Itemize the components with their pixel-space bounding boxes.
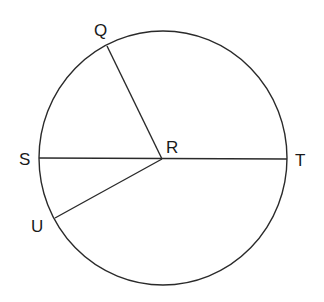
label-U: U — [31, 217, 43, 236]
label-S: S — [19, 150, 30, 169]
diameter-ST — [39, 158, 287, 159]
radius-RQ — [107, 46, 162, 159]
label-T: T — [295, 151, 305, 170]
label-Q: Q — [94, 21, 107, 40]
circle-diagram: Q R S T U — [0, 0, 324, 302]
label-R: R — [166, 138, 178, 157]
radius-RU — [55, 159, 162, 218]
